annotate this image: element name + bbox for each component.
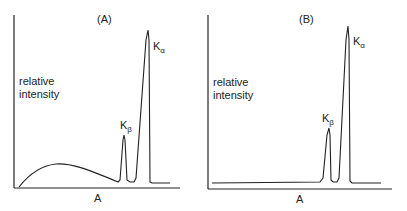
panel-b-xlabel: A [296, 193, 303, 205]
panel-a-k-beta-label: Kβ [120, 119, 132, 136]
panel-a-title: (A) [97, 13, 112, 25]
panel-b-ylabel-line1: relative [213, 76, 248, 88]
panel-a-ylabel-line1: relative [19, 75, 54, 87]
panel-a-ylabel-line2: intensity [19, 88, 59, 100]
panel-a-k-alpha-label: Kα [153, 40, 165, 57]
spectra-figure [0, 0, 407, 211]
panel-b-k-alpha-label: Kα [353, 35, 365, 52]
panel-b-ylabel-line2: intensity [213, 89, 253, 101]
panel-b-title: (B) [299, 13, 314, 25]
panel-a-xlabel: A [94, 192, 101, 204]
panel-a-spectrum-curve [19, 30, 170, 187]
panel-b-k-beta-label: Kβ [322, 112, 334, 129]
